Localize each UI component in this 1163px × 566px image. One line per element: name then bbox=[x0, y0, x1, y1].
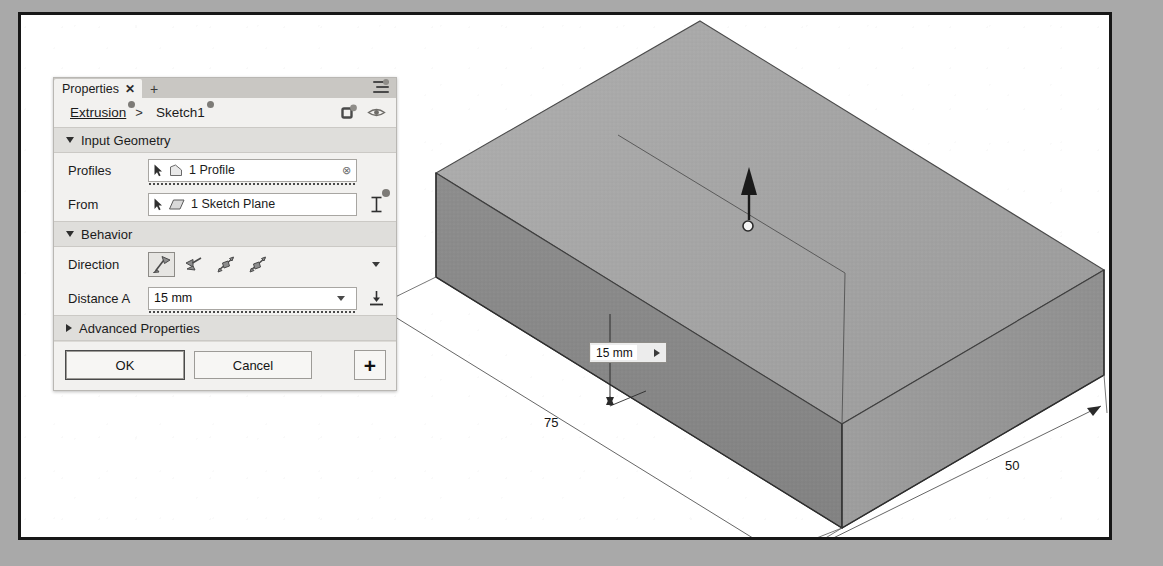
breadcrumb-separator: > bbox=[135, 105, 143, 120]
profiles-value: 1 Profile bbox=[189, 163, 235, 177]
cancel-button[interactable]: Cancel bbox=[194, 351, 312, 379]
label-direction: Direction bbox=[68, 257, 148, 272]
row-from[interactable]: From 1 Sketch Plane bbox=[54, 187, 396, 221]
profiles-active-underline bbox=[149, 183, 356, 185]
section-header-input-geometry[interactable]: Input Geometry bbox=[54, 127, 396, 153]
distance-a-value: 15 mm bbox=[154, 291, 192, 305]
tab-properties-label: Properties bbox=[62, 82, 119, 96]
cursor-arrow-icon bbox=[154, 164, 163, 177]
panel-tabstrip[interactable]: Properties ✕ + bbox=[54, 78, 396, 98]
properties-panel[interactable]: Properties ✕ + Extrusion > Sketch1 bbox=[53, 77, 397, 391]
from-badge-dot bbox=[382, 189, 390, 197]
cursor-arrow-icon bbox=[154, 198, 163, 211]
dimension-label-50[interactable]: 50 bbox=[1005, 458, 1019, 473]
section-title-advanced-properties: Advanced Properties bbox=[79, 321, 200, 336]
close-icon[interactable]: ✕ bbox=[125, 83, 135, 95]
distance-a-input[interactable]: 15 mm bbox=[148, 287, 357, 310]
panel-menu-icon[interactable] bbox=[369, 81, 389, 94]
panel-menu-badge-dot bbox=[383, 79, 389, 85]
visibility-eye-icon[interactable] bbox=[367, 106, 386, 119]
profiles-select-field[interactable]: 1 Profile ⊗ bbox=[148, 159, 357, 182]
row-direction[interactable]: Direction bbox=[54, 247, 396, 281]
from-extent-icon[interactable] bbox=[366, 196, 386, 213]
breadcrumb-current-dot bbox=[207, 101, 214, 108]
distance-measure-icon[interactable] bbox=[366, 290, 386, 306]
label-profiles: Profiles bbox=[68, 163, 148, 178]
section-header-behavior[interactable]: Behavior bbox=[54, 221, 396, 247]
chevron-down-icon bbox=[66, 231, 74, 237]
label-distance-a: Distance A bbox=[68, 291, 148, 306]
breadcrumb-parent-label: Extrusion bbox=[70, 105, 126, 120]
page-frame: 75 50 15 mm Properties ✕ + Extrusion > bbox=[18, 12, 1112, 540]
section-title-input-geometry: Input Geometry bbox=[81, 133, 171, 148]
breadcrumb-parent-dot bbox=[128, 101, 135, 108]
tab-properties[interactable]: Properties ✕ bbox=[54, 79, 142, 98]
profile-icon bbox=[169, 164, 183, 177]
sketch-plane-icon bbox=[169, 199, 185, 210]
inline-distance-value[interactable]: 15 mm bbox=[591, 345, 637, 360]
row-distance-a[interactable]: Distance A 15 mm bbox=[54, 281, 396, 315]
direction-more-chevron-icon[interactable] bbox=[372, 262, 380, 267]
section-title-behavior: Behavior bbox=[81, 227, 132, 242]
direction-option-flipped[interactable] bbox=[180, 252, 207, 277]
from-value: 1 Sketch Plane bbox=[191, 197, 275, 211]
breadcrumb[interactable]: Extrusion > Sketch1 bbox=[54, 98, 396, 127]
row-profiles[interactable]: Profiles 1 Profile ⊗ bbox=[54, 153, 396, 187]
dialog-footer: OK Cancel + bbox=[54, 341, 396, 390]
isolate-icon[interactable] bbox=[341, 104, 358, 121]
clear-profiles-icon[interactable]: ⊗ bbox=[342, 164, 351, 177]
add-feature-button[interactable]: + bbox=[354, 350, 386, 380]
screenshot-root: { "app": { "panel_title": "Properties", … bbox=[0, 0, 1163, 566]
breadcrumb-current-label: Sketch1 bbox=[156, 105, 205, 120]
ok-button[interactable]: OK bbox=[66, 351, 184, 379]
distance-a-active-underline bbox=[149, 311, 356, 313]
arrow-origin-handle[interactable] bbox=[743, 221, 753, 231]
chevron-right-icon bbox=[66, 324, 72, 332]
direction-option-symmetric[interactable] bbox=[212, 252, 239, 277]
inline-distance-editor[interactable]: 15 mm bbox=[589, 342, 667, 363]
solid-block[interactable] bbox=[436, 21, 1104, 528]
distance-a-dropdown-icon[interactable] bbox=[337, 296, 345, 301]
direction-option-two-sided[interactable] bbox=[244, 252, 271, 277]
section-header-advanced-properties[interactable]: Advanced Properties bbox=[54, 315, 396, 341]
breadcrumb-parent[interactable]: Extrusion bbox=[70, 105, 126, 120]
dimension-label-75[interactable]: 75 bbox=[544, 415, 558, 430]
from-select-field[interactable]: 1 Sketch Plane bbox=[148, 193, 357, 216]
add-tab-icon[interactable]: + bbox=[142, 80, 166, 98]
breadcrumb-current[interactable]: Sketch1 bbox=[156, 105, 205, 120]
inline-distance-expand-icon[interactable] bbox=[654, 349, 660, 357]
label-from: From bbox=[68, 197, 148, 212]
direction-option-one-side[interactable] bbox=[148, 252, 175, 277]
chevron-down-icon bbox=[66, 137, 74, 143]
